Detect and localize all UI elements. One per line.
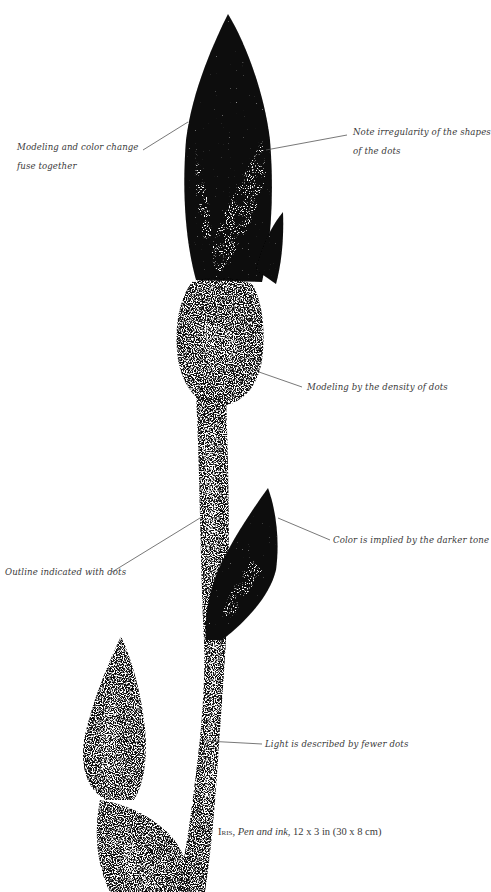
annotation-line: Note irregularity of the shapes [353, 123, 491, 142]
caption-dimensions: 12 x 3 in (30 x 8 cm) [293, 826, 381, 837]
annotation-modeling-color: Modeling and color change fuse together [17, 138, 139, 176]
figure-caption: Iris, Pen and ink, 12 x 3 in (30 x 8 cm) [218, 826, 381, 837]
leader-irregularity [266, 135, 347, 150]
annotation-irregularity: Note irregularity of the shapes of the d… [353, 123, 491, 161]
leader-density [259, 372, 302, 387]
annotation-color-implied: Color is implied by the darker tone [333, 531, 489, 550]
caption-title: Iris, [218, 826, 235, 837]
caption-medium: Pen and ink, [238, 826, 291, 837]
annotation-outline: Outline indicated with dots [5, 563, 126, 582]
annotation-density: Modeling by the density of dots [307, 378, 448, 397]
leader-color-implied [278, 518, 330, 540]
annotation-line: Modeling and color change [17, 138, 139, 157]
annotation-light: Light is described by fewer dots [265, 735, 408, 754]
annotation-line: of the dots [353, 142, 491, 161]
leader-modeling-color [143, 122, 188, 150]
annotation-line: fuse together [17, 157, 139, 176]
